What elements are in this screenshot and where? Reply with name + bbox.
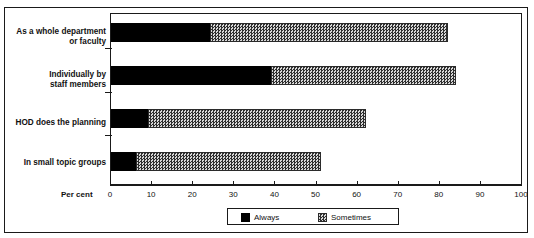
bar-segment-sometimes-0: [210, 23, 448, 42]
value-axis-tick-40: [274, 181, 275, 185]
legend-label-sometimes: Sometimes: [331, 213, 371, 222]
bar-segment-sometimes-3: [136, 152, 321, 171]
category-label-2: HOD does the planning: [6, 118, 106, 128]
value-axis-tick-80: [439, 181, 440, 185]
value-axis-tick-0: [110, 181, 111, 185]
value-axis-tick-20: [192, 181, 193, 185]
bars-layer: [111, 14, 521, 184]
value-axis-tick-label-20: 20: [180, 190, 204, 199]
legend-swatch-sometimes-icon: [318, 213, 327, 222]
bar-segment-sometimes-2: [148, 109, 366, 128]
value-axis-tick-label-30: 30: [221, 190, 245, 199]
figure-container: As a whole department or faculty Individ…: [0, 0, 534, 238]
cropped-text-remnant: [4, 0, 50, 5]
category-label-1: Individually by staff members: [6, 70, 106, 90]
legend-label-always: Always: [254, 213, 279, 222]
value-axis-tick-30: [233, 181, 234, 185]
value-axis-tick-label-60: 60: [345, 190, 369, 199]
value-axis-tick-60: [357, 181, 358, 185]
value-axis-tick-label-40: 40: [262, 190, 286, 199]
value-axis-tick-10: [151, 181, 152, 185]
value-axis-tick-90: [480, 181, 481, 185]
bar-segment-always-2: [111, 109, 148, 128]
value-axis-tick-100: [521, 181, 522, 185]
category-axis-labels: As a whole department or faculty Individ…: [6, 13, 106, 185]
bar-segment-always-0: [111, 23, 210, 42]
category-label-3: In small topic groups: [6, 158, 106, 168]
value-axis-tick-label-80: 80: [427, 190, 451, 199]
legend-item-always: Always: [241, 212, 279, 222]
value-axis-tick-50: [316, 181, 317, 185]
value-axis-tick-label-70: 70: [386, 190, 410, 199]
category-label-0: As a whole department or faculty: [6, 27, 106, 47]
value-axis-tick-label-100: 100: [509, 190, 533, 199]
bar-segment-sometimes-1: [271, 66, 456, 85]
value-axis-tick-label-90: 90: [468, 190, 492, 199]
legend-item-sometimes: Sometimes: [318, 212, 371, 222]
bar-segment-always-1: [111, 66, 271, 85]
value-axis-line: [110, 185, 522, 186]
value-axis-title: Per cent: [61, 190, 93, 199]
value-axis-tick-70: [398, 181, 399, 185]
value-axis-tick-label-50: 50: [304, 190, 328, 199]
legend-swatch-always-icon: [241, 213, 250, 222]
bar-segment-always-3: [111, 152, 136, 171]
chart-legend: Always Sometimes: [227, 208, 399, 225]
value-axis-tick-label-10: 10: [139, 190, 163, 199]
value-axis-tick-label-0: 0: [98, 190, 122, 199]
